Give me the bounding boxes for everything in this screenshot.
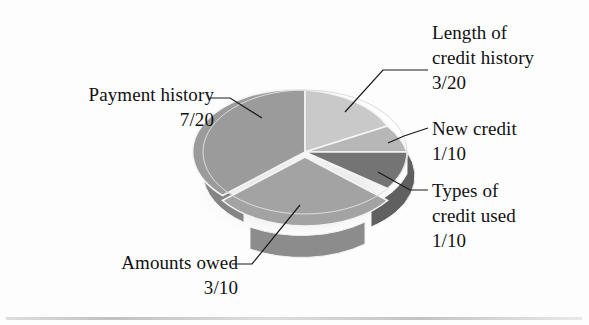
pie-label-length-of-credit-history: Length of credit history 3/20 [432,20,582,95]
scan-artifact-line [6,317,582,320]
pie-label-new-credit: New credit 1/10 [432,116,582,166]
pie-label-types-of-credit-used: Types of credit used 1/10 [432,178,582,253]
pie-label-amounts-owed: Amounts owed 3/10 [48,250,238,300]
pie-label-payment-history: Payment history 7/20 [18,82,214,132]
pie-chart-figure: Length of credit history 3/20 New credit… [0,0,589,325]
